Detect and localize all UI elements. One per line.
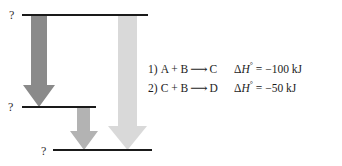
reaction-arrow-icon-1: ⟶ [188,61,209,77]
reactants-2: C + B [161,82,189,94]
energy-level-label-top: ? [9,9,14,21]
energy-level-diagram: ? ? ? 1) A + B⟶C ΔH° = −100 kJ 2) C + B⟶… [0,0,342,166]
reaction-expression-2: 2) C + B⟶D [148,80,232,96]
reaction-index-2: 2) [148,82,158,94]
reaction-equation-row-2: 2) C + B⟶D ΔH° = −50 kJ [148,77,340,96]
enthalpy-h-symbol-2: H [241,82,249,94]
enthalpy-value-2: ΔH° = −50 kJ [232,77,296,96]
enthalpy-number-1: −100 kJ [265,63,302,75]
reaction-equations-list: 1) A + B⟶C ΔH° = −100 kJ 2) C + B⟶D ΔH° … [148,58,340,96]
energy-level-label-bottom: ? [41,145,46,157]
enthalpy-number-2: −50 kJ [265,82,296,94]
enthalpy-value-1: ΔH° = −100 kJ [232,58,302,77]
product-1: C [209,63,217,75]
enthalpy-arrow-step2 [70,107,98,150]
product-2: D [209,82,217,94]
energy-level-label-middle: ? [8,101,13,113]
reaction-index-1: 1) [148,63,158,75]
reactants-1: A + B [161,63,189,75]
reaction-equation-row-1: 1) A + B⟶C ΔH° = −100 kJ [148,58,340,77]
enthalpy-arrow-step1 [23,15,55,107]
reaction-expression-1: 1) A + B⟶C [148,61,232,77]
reaction-arrow-icon-2: ⟶ [188,80,209,96]
enthalpy-arrow-overall [108,15,147,150]
enthalpy-h-symbol-1: H [241,63,249,75]
